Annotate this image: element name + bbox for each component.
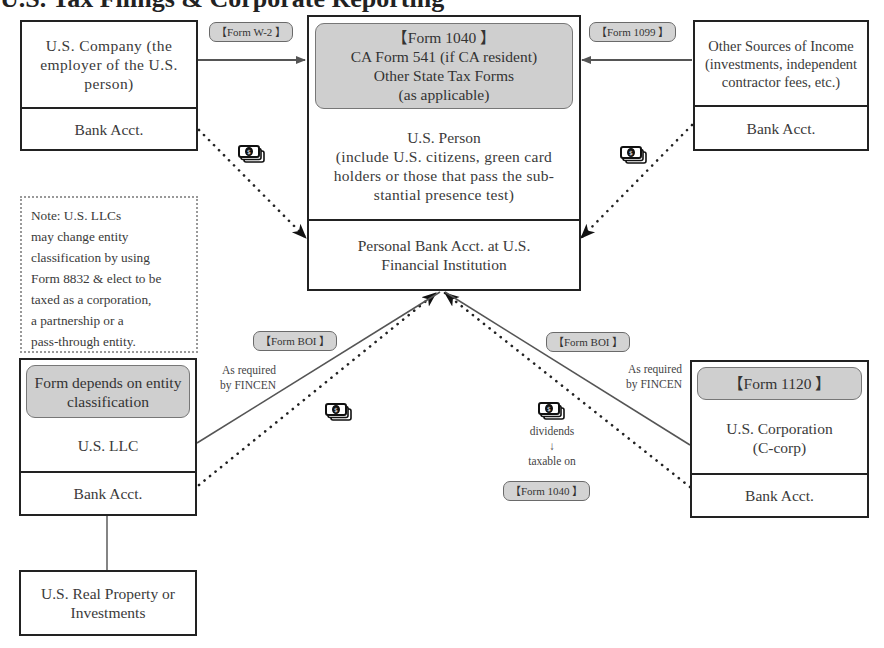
note-line: a partnership or a: [31, 310, 190, 331]
us-llc-bank: Bank Acct.: [21, 473, 195, 514]
svg-text:$: $: [629, 149, 633, 156]
us-corporation-bank: Bank Acct.: [692, 475, 867, 516]
note-line: taxed as a corporation,: [31, 289, 190, 310]
note-line: Note: U.S. LLCs: [31, 205, 190, 226]
us-company-bank: Bank Acct.: [22, 109, 196, 149]
fincen-line: by FINCEN: [200, 378, 276, 393]
real-property-node: U.S. Real Property or Investments: [19, 570, 197, 636]
us-person-title: U.S. Person: [407, 128, 481, 147]
form-1040-dividends-badge: 【Form 1040 】: [503, 481, 590, 501]
form-1099-badge: 【Form 1099 】: [589, 22, 676, 42]
real-property-label: U.S. Real Property or Investments: [21, 572, 195, 634]
fincen-note-right: As required by FINCEN: [604, 362, 682, 392]
dividends-label: dividends: [512, 424, 592, 439]
fincen-line: As required: [200, 363, 276, 378]
state-forms-label: Other State Tax Forms: [374, 66, 514, 85]
money-flow-other: [581, 125, 692, 238]
dividends-annotation: dividends ↓ taxable on: [512, 424, 592, 469]
us-person-node: 【Form 1040 】 CA Form 541 (if CA resident…: [307, 15, 581, 291]
note-line: Form 8832 & elect to be: [31, 268, 190, 289]
us-corporation-label: U.S. Corporation (C-corp): [692, 402, 867, 473]
note-line: may change entity: [31, 226, 190, 247]
us-person-forms-panel: 【Form 1040 】 CA Form 541 (if CA resident…: [315, 23, 573, 109]
llc-form-panel: Form depends on entity classification: [26, 365, 190, 418]
us-corporation-node: 【Form 1120 】 U.S. Corporation (C-corp) B…: [690, 360, 869, 518]
us-person-description: U.S. Person (include U.S. citizens, gree…: [309, 113, 579, 219]
us-company-label: U.S. Company (the employer of the U.S. p…: [22, 22, 196, 107]
us-llc-label: U.S. LLC: [21, 420, 195, 471]
form-boi-badge-left: 【Form BOI 】: [253, 331, 337, 351]
svg-text:$: $: [247, 148, 251, 155]
llc-classification-note: Note: U.S. LLCs may change entity classi…: [20, 196, 198, 353]
corporation-title: U.S. Corporation: [726, 419, 832, 438]
money-bills-icon: $: [238, 145, 266, 165]
us-company-node: U.S. Company (the employer of the U.S. p…: [20, 20, 198, 151]
fincen-note-left: As required by FINCEN: [200, 363, 276, 393]
other-sources-label: Other Sources of Income (investments, in…: [695, 22, 867, 105]
svg-text:$: $: [334, 406, 338, 413]
us-person-criteria: (include U.S. citizens, green card holde…: [313, 147, 575, 204]
form-boi-badge-right: 【Form BOI 】: [546, 332, 630, 352]
as-applicable-label: (as applicable): [399, 85, 490, 104]
money-bills-icon: $: [538, 402, 566, 422]
money-bills-icon: $: [620, 146, 648, 166]
diagram-title-clipped: U.S. Tax Filings & Corporate Reporting: [0, 0, 884, 6]
fincen-line: by FINCEN: [604, 377, 682, 392]
note-line: pass-through entity.: [31, 331, 190, 352]
money-bills-icon: $: [325, 403, 353, 423]
personal-bank-account: Personal Bank Acct. at U.S. Financial In…: [309, 221, 579, 289]
down-arrow-icon: ↓: [512, 439, 592, 454]
us-llc-node: Form depends on entity classification U.…: [19, 358, 197, 516]
svg-text:$: $: [547, 405, 551, 412]
form-1120-panel: 【Form 1120 】: [697, 367, 862, 400]
taxable-on-label: taxable on: [512, 454, 592, 469]
fincen-line: As required: [604, 362, 682, 377]
corporation-type: (C-corp): [753, 438, 806, 457]
form-1040-label: 【Form 1040 】: [392, 28, 496, 47]
other-sources-bank: Bank Acct.: [695, 107, 867, 149]
form-w2-badge: 【Form W-2 】: [209, 22, 293, 42]
other-sources-node: Other Sources of Income (investments, in…: [693, 20, 869, 151]
note-line: classification by using: [31, 247, 190, 268]
ca-form-541-label: CA Form 541 (if CA resident): [351, 47, 537, 66]
